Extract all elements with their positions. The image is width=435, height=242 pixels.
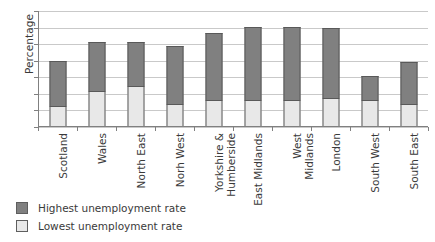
x-category-label: West Midlands [292,133,315,207]
legend-swatch [16,202,28,214]
x-tick-mark [389,127,390,131]
x-category-label: East Midlands [253,133,265,207]
bar-segment-highest[interactable] [322,28,339,98]
x-category-label: Yorkshire & Humberside [214,133,237,207]
bar-segment-lowest[interactable] [244,100,261,127]
bar-segment-highest[interactable] [361,76,378,100]
bar-segment-lowest[interactable] [205,100,222,127]
bar-group[interactable] [88,42,105,127]
legend-label: Lowest unemployment rate [38,220,182,232]
x-tick-mark [116,127,117,131]
bar-segment-highest[interactable] [205,33,222,101]
x-category-label: North East [136,133,148,207]
bar-group[interactable] [322,28,339,127]
x-category-label: Wales [97,133,109,207]
y-tick-mark [34,110,38,111]
x-category-label: Norh West [175,133,187,207]
bar-segment-highest[interactable] [127,42,144,86]
bar-segment-highest[interactable] [166,46,183,104]
x-category-label: South East [409,133,421,207]
x-category-label: Scotland [58,133,70,207]
bar-segment-lowest[interactable] [283,100,300,127]
x-tick-mark [428,127,429,131]
y-tick-mark [34,127,38,128]
bar-segment-lowest[interactable] [361,100,378,127]
gridline [38,28,428,29]
x-tick-mark [311,127,312,131]
x-tick-mark [155,127,156,131]
plot-area [38,11,428,127]
y-tick-mark [34,11,38,12]
bar-segment-lowest[interactable] [49,106,66,127]
bar-segment-lowest[interactable] [166,104,183,127]
bar-segment-highest[interactable] [88,42,105,92]
y-tick-mark [34,77,38,78]
x-tick-mark [350,127,351,131]
gridline [38,11,428,12]
bar-group[interactable] [205,33,222,127]
x-axis-line [38,126,428,127]
bar-group[interactable] [49,61,66,127]
x-tick-mark [38,127,39,131]
y-axis-title: Percentage [23,0,35,99]
x-tick-mark [272,127,273,131]
legend-swatch [16,220,28,232]
bar-group[interactable] [244,27,261,127]
x-tick-mark [194,127,195,131]
bar-group[interactable] [400,62,417,127]
y-tick-mark [34,94,38,95]
bar-group[interactable] [166,46,183,127]
y-tick-mark [34,44,38,45]
bar-segment-highest[interactable] [49,61,66,107]
bar-segment-lowest[interactable] [322,98,339,127]
bar-segment-lowest[interactable] [400,104,417,127]
legend-item[interactable]: Highest unemployment rate [16,199,186,217]
x-category-label: South West [370,133,382,207]
bar-segment-lowest[interactable] [88,91,105,127]
bar-segment-highest[interactable] [400,62,417,103]
chart-figure: Percentage 02468101214 ScotlandWalesNort… [0,0,435,242]
bar-segment-lowest[interactable] [127,86,144,127]
bar-group[interactable] [283,27,300,127]
y-axis-line [38,11,39,127]
legend-item[interactable]: Lowest unemployment rate [16,217,186,235]
x-tick-mark [233,127,234,131]
bar-segment-highest[interactable] [244,27,261,101]
chart-legend: Highest unemployment rateLowest unemploy… [16,199,186,235]
bar-group[interactable] [361,76,378,127]
x-tick-mark [77,127,78,131]
y-tick-mark [34,61,38,62]
x-category-label: London [331,133,343,207]
legend-label: Highest unemployment rate [38,202,186,214]
y-tick-mark [34,28,38,29]
bar-segment-highest[interactable] [283,27,300,100]
bar-group[interactable] [127,42,144,127]
